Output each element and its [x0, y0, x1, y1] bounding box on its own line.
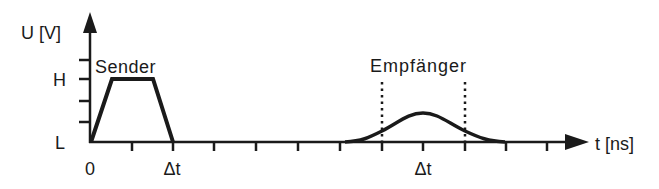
sender-label: Sender: [95, 57, 156, 77]
x-axis-label: t [ns]: [595, 134, 634, 154]
y-axis-arrow-icon: [83, 12, 97, 33]
signal-timing-diagram: U [V] H L t [ns] 0 Δt Δt Sender: [0, 0, 659, 189]
x-tick-label-origin: 0: [85, 159, 95, 179]
sender-pulse-trapezoid: [91, 79, 173, 142]
receiver-signal: Empfänger: [345, 56, 505, 142]
receiver-label: Empfänger: [370, 56, 467, 76]
x-tick-label-delta-t-sender: Δt: [163, 159, 180, 179]
x-ticks: [132, 142, 547, 151]
y-level-h-label: H: [53, 70, 66, 90]
receiver-pulse-curve: [345, 113, 505, 142]
sender-signal: Sender: [91, 57, 173, 142]
y-axis-label: U [V]: [21, 23, 61, 43]
x-axis-arrow-icon: [565, 134, 589, 150]
x-tick-label-delta-t-receiver: Δt: [414, 159, 431, 179]
y-level-l-label: L: [55, 133, 65, 153]
y-axis: U [V] H L: [21, 12, 97, 153]
